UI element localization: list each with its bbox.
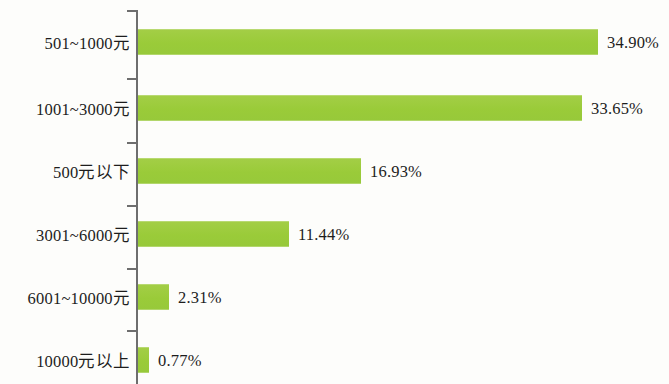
category-label: 10000元以上 bbox=[36, 348, 130, 372]
category-label: 501~1000元 bbox=[45, 30, 130, 54]
bar-fill[interactable] bbox=[138, 96, 582, 121]
bar-fill[interactable] bbox=[138, 159, 361, 184]
bar-row: 500元以下 16.93% bbox=[0, 140, 669, 202]
bar-chart: 501~1000元 34.90% 1001~3000元 33.65% 500元以… bbox=[0, 0, 669, 384]
category-label: 6001~10000元 bbox=[28, 285, 130, 309]
bar-value-label: 11.44% bbox=[298, 224, 349, 244]
category-label: 1001~3000元 bbox=[36, 96, 130, 120]
bar-fill[interactable] bbox=[138, 348, 149, 373]
bar-row: 501~1000元 34.90% bbox=[0, 11, 669, 73]
bar-row: 3001~6000元 11.44% bbox=[0, 203, 669, 265]
category-label: 500元以下 bbox=[53, 159, 130, 183]
bar-fill[interactable] bbox=[138, 285, 169, 310]
bar-track: 33.65% bbox=[138, 96, 643, 121]
bar-row: 6001~10000元 2.31% bbox=[0, 266, 669, 328]
bar-value-label: 34.90% bbox=[607, 32, 659, 52]
bar-value-label: 33.65% bbox=[591, 98, 643, 118]
bar-row: 1001~3000元 33.65% bbox=[0, 77, 669, 139]
bar-track: 11.44% bbox=[138, 222, 349, 247]
bar-fill[interactable] bbox=[138, 30, 598, 55]
bar-value-label: 16.93% bbox=[370, 161, 422, 181]
bar-value-label: 2.31% bbox=[178, 287, 222, 307]
bar-fill[interactable] bbox=[138, 222, 289, 247]
bar-value-label: 0.77% bbox=[158, 350, 202, 370]
bar-track: 2.31% bbox=[138, 285, 222, 310]
bar-track: 34.90% bbox=[138, 30, 659, 55]
category-label: 3001~6000元 bbox=[36, 222, 130, 246]
bar-track: 0.77% bbox=[138, 348, 202, 373]
bar-track: 16.93% bbox=[138, 159, 422, 184]
bar-row: 10000元以上 0.77% bbox=[0, 329, 669, 384]
